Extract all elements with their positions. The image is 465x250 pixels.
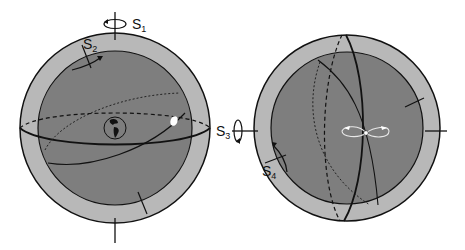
center-point	[364, 131, 369, 136]
diagram-canvas: S1 S2 S3	[0, 0, 465, 250]
s1-label: S1	[132, 16, 146, 34]
s3-label: S3	[216, 123, 230, 141]
earth-globe-icon	[104, 117, 126, 139]
s3-rotation-arrow-icon	[234, 120, 242, 144]
left-sphere: S1 S2	[20, 12, 210, 243]
right-sphere: S3 S4	[216, 35, 447, 221]
